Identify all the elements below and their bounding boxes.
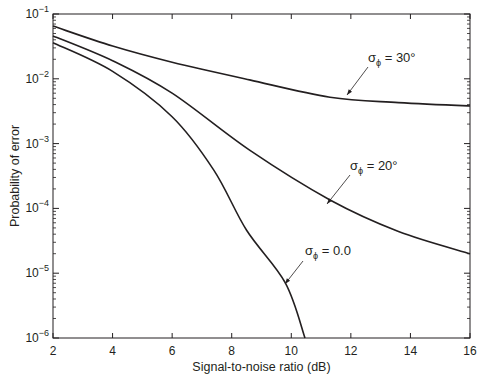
curve-label: σϕ = 20° [350, 158, 398, 176]
x-tick-label: 6 [169, 344, 176, 358]
y-tick-label: 10−1 [25, 4, 49, 21]
y-tick-label: 10−4 [25, 198, 49, 215]
y-tick-label: 10−5 [25, 263, 49, 280]
x-axis-title: Signal-to-noise ratio (dB) [192, 360, 330, 374]
y-tick-label: 10−3 [25, 134, 49, 151]
x-axis-ticks: 246810121416 [50, 14, 477, 358]
curve-line [53, 26, 470, 106]
x-tick-label: 16 [463, 344, 477, 358]
arrowhead-icon [347, 89, 352, 95]
x-tick-label: 12 [344, 344, 358, 358]
curve-line [53, 43, 305, 338]
x-tick-label: 10 [285, 344, 299, 358]
curve-label: σϕ = 30° [368, 50, 416, 68]
curves [53, 26, 470, 338]
y-tick-label: 10−6 [25, 328, 49, 345]
curve-line [53, 36, 470, 254]
y-tick-label: 10−2 [25, 69, 49, 86]
curve-label: σϕ = 0.0 [305, 243, 351, 261]
arrowhead-icon [285, 278, 290, 284]
curve-annotations: σϕ = 30°σϕ = 20°σϕ = 0.0 [285, 50, 416, 284]
x-tick-label: 2 [50, 344, 57, 358]
error-probability-chart: 246810121416 10−610−510−410−310−210−1 σϕ… [0, 0, 485, 380]
x-tick-label: 8 [228, 344, 235, 358]
x-tick-label: 14 [404, 344, 418, 358]
y-axis-title: Probability of error [8, 125, 22, 227]
x-tick-label: 4 [109, 344, 116, 358]
